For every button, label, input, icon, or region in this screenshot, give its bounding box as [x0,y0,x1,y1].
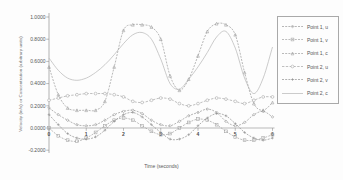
data-point-marker [48,99,51,102]
data-point-marker [113,113,116,116]
legend-key-sample [281,22,305,31]
data-point-marker [178,102,181,105]
data-point-marker [225,98,228,101]
x-tick-label: 2 [122,131,125,137]
data-point-marker [169,74,172,77]
data-point-marker [187,133,190,136]
data-point-marker [57,123,60,126]
legend-label: Point 2, u [307,64,328,70]
legend-item: Point 1, u [278,22,338,31]
data-point-marker [178,138,181,141]
data-point-marker [234,100,237,103]
data-point-marker [85,92,88,95]
x-tick-label: 4 [197,131,200,137]
chart: 1.00000.80000.60000.40000.20000.0000-0.2… [0,0,343,180]
legend-item: Point 2, u [278,62,338,71]
data-point-marker [215,97,218,100]
x-tick-label: 0 [48,131,51,137]
data-point-marker [271,137,274,140]
legend-key-sample [281,62,305,71]
legend-label: Point 1, c [307,50,328,56]
data-point-marker [103,92,106,95]
data-point-marker [197,102,200,105]
data-point-marker [197,54,200,57]
legend-key-sample [281,35,305,44]
data-point-marker [76,137,79,140]
data-point-marker [66,94,69,97]
data-point-marker [113,93,116,96]
data-point-marker [252,99,255,102]
data-point-marker [169,138,172,141]
series-markers-point-2-u [48,92,274,107]
y-tick-label: 0.8000 [30,36,46,42]
legend-label: Point 2, c [307,90,328,96]
legend-label: Point 1, v [307,37,328,43]
data-point-marker [141,23,144,26]
data-point-marker [169,98,172,101]
data-point-marker [141,101,144,104]
data-point-marker [215,22,218,25]
legend-key-sample [281,75,305,84]
data-point-marker [225,114,228,117]
data-point-marker [159,38,162,41]
legend-key-sample [281,89,305,98]
data-point-marker [85,138,88,141]
data-point-marker [122,113,125,116]
data-point-marker [57,97,60,100]
data-point-marker [159,97,162,100]
data-point-marker [291,79,294,82]
y-tick-label: 0.2000 [30,103,46,109]
legend-key-sample [281,49,305,58]
data-point-marker [94,92,97,95]
data-point-marker [291,65,294,68]
data-point-marker [76,93,79,96]
data-point-marker [225,23,228,26]
data-point-marker [262,96,265,99]
data-point-marker [122,96,125,99]
legend-label: Point 1, u [307,24,328,30]
series-markers-point-1-u [48,107,274,128]
data-point-marker [66,119,69,122]
legend-label: Point 2, v [307,77,328,83]
y-tick-label: 0.4000 [30,80,46,86]
data-point-marker [94,135,97,138]
y-tick-label: 0.6000 [30,58,46,64]
x-axis-title: Time (seconds) [49,163,274,169]
data-point-marker [243,102,246,105]
legend-item: Point 1, v [278,35,338,44]
data-point-marker [206,99,209,102]
data-point-marker [150,99,153,102]
data-point-marker [66,132,69,135]
y-tick-label: 0.0000 [30,125,46,131]
data-point-marker [187,104,190,107]
y-tick-label: -0.2000 [29,147,46,153]
data-point-marker [178,120,181,123]
x-tick-label: 1 [85,131,88,137]
y-tick-label: 1.0000 [30,14,46,20]
y-axis-title: Velocity (in/s) or Concentration (arbitr… [18,36,23,132]
legend-item: Point 2, c [278,89,338,98]
data-point-marker [197,124,200,127]
data-point-marker [131,111,134,114]
legend-item: Point 2, v [278,75,338,84]
data-point-marker [271,101,274,104]
legend: Point 1, uPoint 1, vPoint 1, cPoint 2, u… [277,16,339,104]
data-point-marker [131,100,134,103]
data-point-marker [271,96,274,99]
legend-item: Point 1, c [278,49,338,58]
